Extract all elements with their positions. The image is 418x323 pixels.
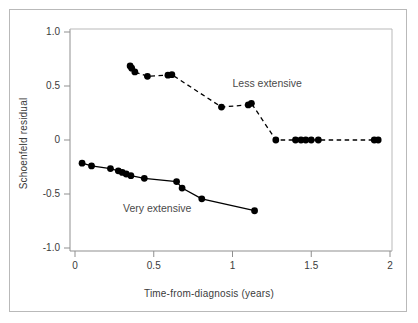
data-point-marker [173,178,180,185]
y-axis-ticks [64,32,70,248]
x-tick-label: 1.5 [296,260,326,271]
data-point-marker [308,137,315,144]
y-tick-label: 0.5 [26,80,60,91]
data-point-marker [218,104,225,111]
x-tick-label: 2 [375,260,405,271]
data-point-marker [248,100,255,107]
data-point-marker [168,71,175,78]
data-point-marker [272,137,279,144]
data-point-marker [88,163,95,170]
data-point-marker [141,175,148,182]
x-tick-label: 1 [218,260,248,271]
series-annotation-label: Very extensive [123,202,191,214]
chart-plot-area [0,0,418,323]
y-tick-label: 1.0 [26,26,60,37]
x-axis-ticks [75,251,390,257]
x-tick-label: 0.5 [139,260,169,271]
data-series-layer [79,63,382,215]
series-annotation-label: Less extensive [233,77,302,89]
data-point-marker [144,73,151,80]
data-point-marker [131,69,138,76]
data-point-marker [198,195,205,202]
y-tick-label: -0.5 [26,188,60,199]
x-tick-label: 0 [60,260,90,271]
y-tick-label: 0 [26,134,60,145]
data-point-marker [128,172,135,179]
data-point-marker [251,207,258,214]
data-point-marker [315,137,322,144]
data-point-marker [107,165,114,172]
data-point-marker [375,137,382,144]
x-axis-title: Time-from-diagnosis (years) [0,288,418,299]
chart-screenshot: 1.00.50-0.5-1.0 00.511.52 Schoenfeld res… [0,0,418,323]
axis-lines [70,29,392,251]
data-point-marker [179,185,186,192]
data-point-marker [79,160,86,167]
y-axis-title: Schoenfeld residual [18,74,29,214]
y-tick-label: -1.0 [26,242,60,253]
